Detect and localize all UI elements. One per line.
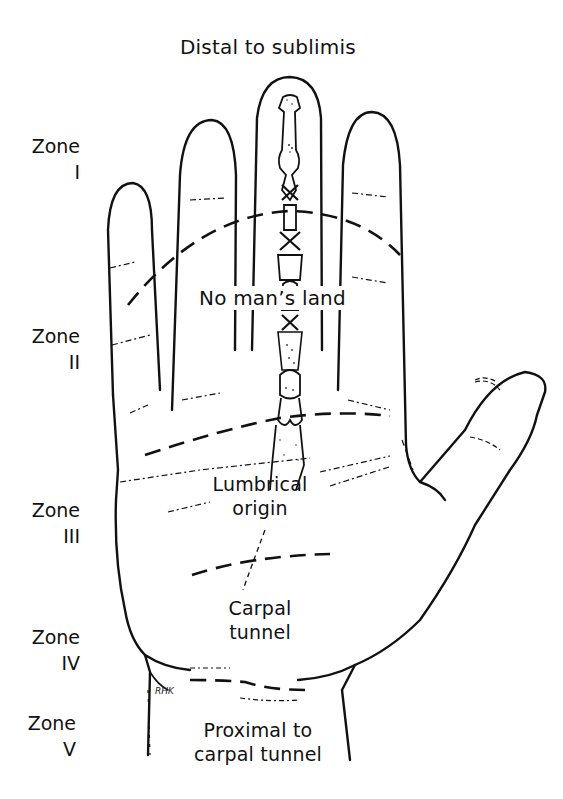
zone-numeral: III [0, 523, 80, 549]
title-distal-to-sublimis: Distal to sublimis [180, 35, 356, 59]
zone-II-label: Zone II [0, 323, 80, 375]
index-finger-outline [338, 112, 406, 445]
artist-signature: RHK [155, 686, 174, 696]
hand-illustration [0, 0, 563, 799]
carpal-line2: tunnel [205, 620, 315, 644]
proximal-to-carpal-tunnel-label: Proximal to carpal tunnel [168, 718, 348, 766]
zone-numeral: II [0, 349, 80, 375]
ring-finger-outline [172, 120, 236, 410]
zone-label-text: Zone [0, 624, 80, 650]
forearm-left [145, 655, 150, 755]
zone-IV-V-boundary [190, 680, 305, 690]
zone-II-III-boundary [145, 413, 390, 455]
zone-numeral: IV [0, 650, 80, 676]
lumbrical-origin-label: Lumbrical origin [200, 472, 320, 520]
hand-zone-diagram: Distal to sublimis Zone I Zone II Zone I… [0, 0, 563, 799]
zone-numeral: I [0, 159, 80, 185]
carpal-line1: Carpal [205, 596, 315, 620]
zone-label-text: Zone [0, 710, 76, 736]
zone-III-label: Zone III [0, 497, 80, 549]
zone-label-text: Zone [0, 133, 80, 159]
zone-V-label: Zone V [0, 710, 76, 762]
carpal-tunnel-label: Carpal tunnel [205, 596, 315, 644]
zone-I-label: Zone I [0, 133, 80, 185]
little-finger-outline [108, 183, 160, 395]
lumbrical-line2: origin [200, 496, 320, 520]
no-mans-land-label: No man’s land [196, 286, 349, 310]
zone-numeral: V [0, 736, 76, 762]
proximal-line2: carpal tunnel [168, 742, 348, 766]
zone-IV-label: Zone IV [0, 624, 80, 676]
thumb-outline [355, 372, 545, 665]
zone-label-text: Zone [0, 497, 80, 523]
lumbrical-line1: Lumbrical [200, 472, 320, 496]
wrist-crease [145, 655, 190, 670]
zone-label-text: Zone [0, 323, 80, 349]
palm-left-edge [113, 395, 145, 655]
zone-III-IV-boundary [192, 554, 330, 575]
proximal-line1: Proximal to [168, 718, 348, 742]
